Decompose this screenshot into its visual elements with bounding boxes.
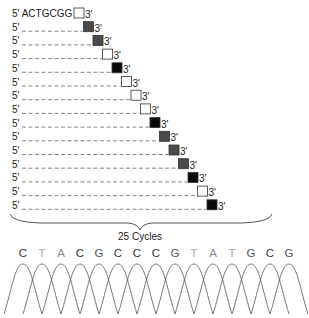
three-prime-label: 3' bbox=[95, 23, 103, 34]
fragment-row: 5'3' bbox=[12, 77, 140, 89]
nucleotide-marker bbox=[122, 77, 132, 87]
cycles-brace: 25 Cycles bbox=[10, 214, 272, 242]
three-prime-label: 3' bbox=[133, 78, 141, 89]
three-prime-label: 3' bbox=[218, 201, 226, 212]
five-prime-label: 5' bbox=[12, 22, 20, 33]
five-prime-label: 5' bbox=[12, 186, 20, 197]
five-prime-label: 5' bbox=[12, 159, 20, 170]
three-prime-label: 3' bbox=[104, 36, 112, 47]
base-call-C: C bbox=[114, 247, 122, 259]
nucleotide-marker bbox=[207, 200, 217, 210]
base-call-C: C bbox=[19, 247, 27, 259]
trace-peak bbox=[251, 264, 289, 314]
trace-peak bbox=[42, 264, 80, 314]
nucleotide-marker bbox=[74, 8, 84, 18]
trace-peak bbox=[4, 264, 42, 314]
trace-peak bbox=[137, 264, 175, 314]
fragment-row: 5'3' bbox=[12, 186, 216, 198]
trace-peak bbox=[175, 264, 213, 314]
five-prime-label: 5' bbox=[12, 145, 20, 156]
trace-peak bbox=[232, 264, 270, 314]
base-call-A: A bbox=[57, 247, 65, 259]
base-call-T: T bbox=[38, 247, 45, 259]
nucleotide-marker bbox=[103, 49, 113, 59]
three-prime-label: 3' bbox=[152, 105, 160, 116]
three-prime-label: 3' bbox=[190, 160, 198, 171]
cycles-label: 25 Cycles bbox=[118, 231, 162, 242]
five-prime-label: 5' bbox=[12, 77, 20, 88]
five-prime-label: 5' bbox=[12, 35, 20, 46]
nucleotide-marker bbox=[112, 63, 122, 73]
fragment-row: 5'3' bbox=[12, 63, 131, 75]
three-prime-label: 3' bbox=[161, 119, 169, 130]
three-prime-label: 3' bbox=[123, 64, 131, 75]
chromatogram: CTACGCCCGTATGCG bbox=[4, 247, 308, 314]
trace-peak bbox=[61, 264, 99, 314]
nucleotide-marker bbox=[198, 186, 208, 196]
primer-sequence: 5' ACTGCGG bbox=[12, 8, 72, 19]
nucleotide-marker bbox=[93, 35, 103, 45]
five-prime-label: 5' bbox=[12, 172, 20, 183]
five-prime-label: 5' bbox=[12, 63, 20, 74]
base-call-G: G bbox=[285, 247, 294, 259]
base-call-G: G bbox=[171, 247, 180, 259]
fragment-row: 5'3' bbox=[12, 104, 159, 116]
nucleotide-marker bbox=[131, 90, 141, 100]
three-prime-label: 3' bbox=[171, 132, 179, 143]
fragment-row: 5'3' bbox=[12, 49, 121, 61]
base-call-A: A bbox=[209, 247, 217, 259]
fragment-row: 5'3' bbox=[12, 118, 169, 130]
nucleotide-marker bbox=[141, 104, 151, 114]
three-prime-label: 3' bbox=[85, 9, 93, 20]
brace-icon bbox=[10, 214, 272, 230]
nucleotide-marker bbox=[84, 22, 94, 32]
fragment-row: 5'3' bbox=[12, 90, 150, 102]
fragment-row: 5'3' bbox=[12, 200, 226, 212]
trace-peak bbox=[194, 264, 232, 314]
base-call-C: C bbox=[76, 247, 84, 259]
five-prime-label: 5' bbox=[12, 131, 20, 142]
nucleotide-marker bbox=[188, 172, 198, 182]
trace-peak bbox=[156, 264, 194, 314]
fragment-row: 5'3' bbox=[12, 35, 112, 47]
trace-peak bbox=[23, 264, 61, 314]
trace-peak bbox=[99, 264, 137, 314]
fragment-row: 5'3' bbox=[12, 145, 188, 157]
nucleotide-marker bbox=[179, 159, 189, 169]
three-prime-label: 3' bbox=[199, 173, 207, 184]
nucleotide-marker bbox=[160, 131, 170, 141]
base-call-C: C bbox=[152, 247, 160, 259]
five-prime-label: 5' bbox=[12, 104, 20, 115]
fragment-row: 5'3' bbox=[12, 22, 102, 34]
trace-peak bbox=[80, 264, 118, 314]
trace-peak bbox=[270, 264, 308, 314]
three-prime-label: 3' bbox=[209, 187, 217, 198]
base-call-G: G bbox=[95, 247, 104, 259]
base-call-C: C bbox=[266, 247, 274, 259]
trace-peak bbox=[118, 264, 156, 314]
five-prime-label: 5' bbox=[12, 90, 20, 101]
three-prime-label: 3' bbox=[180, 146, 188, 157]
base-call-G: G bbox=[247, 247, 256, 259]
five-prime-label: 5' bbox=[12, 200, 20, 211]
nucleotide-marker bbox=[150, 118, 160, 128]
fragment-row: 5'3' bbox=[12, 131, 178, 143]
trace-peak bbox=[213, 264, 251, 314]
base-call-C: C bbox=[133, 247, 141, 259]
five-prime-label: 5' bbox=[12, 118, 20, 129]
extension-ladder: 5' ACTGCGG3'5'3'5'3'5'3'5'3'5'3'5'3'5'3'… bbox=[12, 8, 226, 212]
fragment-row: 5'3' bbox=[12, 159, 197, 171]
three-prime-label: 3' bbox=[142, 91, 150, 102]
sanger-sequencing-diagram: 5' ACTGCGG3'5'3'5'3'5'3'5'3'5'3'5'3'5'3'… bbox=[0, 0, 309, 318]
nucleotide-marker bbox=[169, 145, 179, 155]
three-prime-label: 3' bbox=[114, 50, 122, 61]
fragment-row: 5'3' bbox=[12, 172, 207, 184]
base-call-T: T bbox=[190, 247, 197, 259]
base-call-T: T bbox=[228, 247, 235, 259]
five-prime-label: 5' bbox=[12, 49, 20, 60]
